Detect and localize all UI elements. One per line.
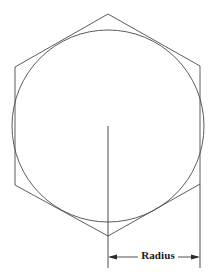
hexagon-radius-diagram: Radius xyxy=(0,0,215,276)
dimension-arrow-right-icon xyxy=(191,254,200,259)
dimension-arrow-left-icon xyxy=(108,254,117,259)
diagram-canvas xyxy=(0,0,215,276)
hexagon-shape xyxy=(15,14,200,236)
radius-dimension-label: Radius xyxy=(140,249,176,261)
